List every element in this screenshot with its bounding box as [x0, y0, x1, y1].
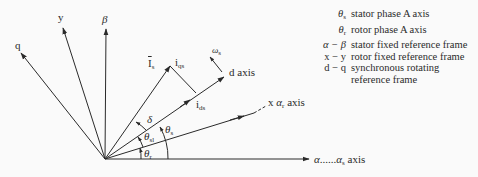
alpha-axis-label: α......αs axis [314, 154, 365, 169]
x-axis-label: x αr axis [268, 97, 305, 112]
x-suffix: axis [284, 96, 304, 108]
y-axis-line [63, 28, 105, 159]
legend-symbol-text: d − q [324, 62, 346, 73]
legend-row-theta-r: θr rotor phase A axis [306, 24, 467, 40]
legend-symbol-text: x − y [324, 51, 346, 62]
q-axis-line [21, 53, 105, 159]
theta-sl-label-sub: sl [149, 136, 154, 144]
beta-label: β [102, 14, 107, 25]
y-label: y [58, 12, 64, 23]
x-axis-dashed [254, 106, 266, 113]
legend-row-x-y: x − y rotor fixed reference frame [306, 51, 467, 63]
legend-desc: rotor fixed reference frame [351, 51, 464, 63]
legend-row-continuation: reference frame [306, 74, 467, 86]
ids-label: ids [196, 99, 205, 114]
d-axis-label: d axis [229, 67, 255, 78]
iqs-label-sub: qs [178, 62, 184, 70]
legend-symbol [306, 74, 351, 86]
omega-s-arrow [210, 57, 222, 72]
d-axis-line [105, 77, 224, 159]
legend-desc: stator fixed reference frame [351, 39, 467, 51]
beta-axis-line [105, 29, 106, 159]
theta-sl-arc [138, 137, 143, 147]
legend-symbol-sub: s [343, 13, 346, 21]
is-label-sub: s [152, 63, 155, 71]
delta-label-text: δ [147, 113, 152, 125]
theta-r-arc [140, 148, 141, 159]
legend-symbol: θs [306, 8, 351, 24]
ids-label-sub: ds [199, 104, 205, 112]
x-axis-arrow [230, 116, 244, 120]
omega-s-label: ωs [212, 45, 221, 59]
q-label-text: q [15, 39, 21, 51]
theta-r-label: θr [144, 148, 152, 163]
delta-label: δ [147, 114, 152, 125]
legend-desc: reference frame [351, 74, 417, 86]
q-label: q [15, 40, 21, 51]
x-prefix: x [268, 96, 276, 108]
omega-s-label-sub: s [218, 49, 221, 57]
legend-row-alpha-beta: α − β stator fixed reference frame [306, 39, 467, 51]
legend-symbol-text: α − β [323, 39, 346, 50]
is-label: Is [148, 58, 154, 73]
theta-s-label: θs [165, 124, 173, 139]
theta-sl-label: θsl [144, 131, 154, 146]
iqs-label: iqs [175, 57, 184, 72]
y-label-text: y [58, 11, 64, 23]
legend-symbol: α − β [306, 39, 351, 51]
beta-label-text: β [102, 13, 107, 25]
is-vector-line [105, 66, 170, 159]
legend-symbol: d − q [306, 62, 351, 74]
legend-desc: rotor phase A axis [351, 24, 427, 40]
legend: θs stator phase A axis θr rotor phase A … [306, 8, 467, 85]
legend-symbol: x − y [306, 51, 351, 63]
d-axis-mid-arrow [180, 100, 190, 107]
alpha-dots: ...... [320, 153, 337, 165]
legend-symbol-sub: r [344, 29, 346, 37]
delta-arc [136, 122, 146, 130]
theta-s-label-sub: s [170, 129, 173, 137]
legend-row-theta-s: θs stator phase A axis [306, 8, 467, 24]
legend-desc: stator phase A axis [351, 8, 429, 24]
theta-r-label-sub: r [149, 153, 151, 161]
alpha-suffix: axis [345, 153, 365, 165]
legend-symbol: θr [306, 24, 351, 40]
d-axis-label-text: d axis [229, 66, 255, 78]
legend-desc: synchronous rotating [351, 62, 439, 74]
legend-row-d-q: d − q synchronous rotating [306, 62, 467, 74]
